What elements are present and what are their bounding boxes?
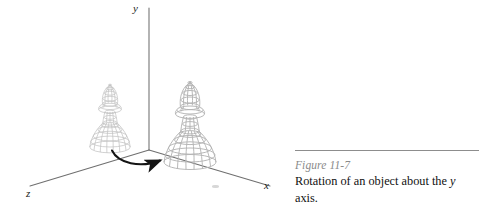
axis-label-z: z	[26, 188, 30, 199]
caption-axis-italic: y	[450, 174, 455, 188]
caption-figure-number: Figure 11-7	[295, 158, 479, 172]
z-axis-line	[30, 150, 149, 186]
chess-piece-original	[90, 84, 131, 153]
figure-page: y x z Figure 11-7 Rotation of an object …	[0, 0, 482, 216]
caption-line-1: Rotation of an object about the	[295, 174, 447, 188]
figure-caption-block: Figure 11-7 Rotation of an object about …	[295, 150, 479, 206]
caption-divider-rule	[295, 150, 479, 151]
caption-text: Rotation of an object about the y axis.	[295, 173, 475, 205]
chess-piece-rotated	[164, 82, 216, 170]
figure-illustration: y x z	[0, 0, 290, 216]
axis-label-y: y	[133, 3, 138, 14]
caption-line-2-rest: axis.	[295, 191, 318, 205]
scan-artifact-speck	[212, 185, 219, 188]
x-axis-line	[149, 150, 270, 186]
axes-and-objects-svg	[0, 0, 290, 216]
axis-lines	[30, 8, 270, 186]
axis-label-x: x	[264, 180, 269, 191]
